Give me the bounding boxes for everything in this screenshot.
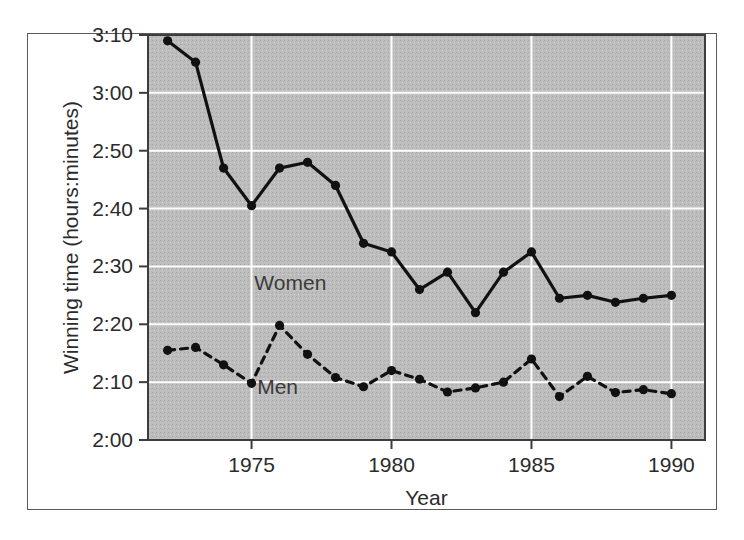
series-annotation-women: Women bbox=[254, 271, 326, 294]
data-point-men bbox=[639, 385, 648, 394]
data-point-men bbox=[219, 360, 228, 369]
data-point-women bbox=[471, 308, 480, 317]
y-axis-tick-label: 2:00 bbox=[92, 428, 133, 451]
data-point-women bbox=[639, 294, 648, 303]
data-point-men bbox=[331, 373, 340, 382]
data-point-men bbox=[499, 378, 508, 387]
x-axis-title: Year bbox=[405, 486, 447, 509]
data-point-men bbox=[555, 392, 564, 401]
y-axis-tick-label: 2:10 bbox=[92, 370, 133, 393]
data-point-men bbox=[247, 379, 256, 388]
plot-background bbox=[148, 35, 705, 440]
data-point-men bbox=[191, 343, 200, 352]
data-point-women bbox=[583, 291, 592, 300]
series-annotation-men: Men bbox=[257, 375, 298, 398]
data-point-men bbox=[583, 372, 592, 381]
data-point-women bbox=[303, 158, 312, 167]
data-point-women bbox=[527, 247, 536, 256]
data-point-women bbox=[219, 163, 228, 172]
marathon-winning-times-figure: 2:002:102:202:302:402:503:003:1019751980… bbox=[0, 0, 744, 540]
data-point-men bbox=[359, 382, 368, 391]
data-point-men bbox=[527, 354, 536, 363]
data-point-women bbox=[359, 239, 368, 248]
data-point-men bbox=[667, 389, 676, 398]
data-point-women bbox=[247, 201, 256, 210]
line-chart: 2:002:102:202:302:402:503:003:1019751980… bbox=[0, 0, 744, 540]
data-point-men bbox=[387, 366, 396, 375]
data-point-men bbox=[303, 350, 312, 359]
y-axis-tick-label: 2:40 bbox=[92, 197, 133, 220]
y-axis-tick-label: 2:50 bbox=[92, 139, 133, 162]
y-axis-tick-label: 2:20 bbox=[92, 312, 133, 335]
data-point-women bbox=[499, 268, 508, 277]
data-point-men bbox=[275, 321, 284, 330]
y-axis-title: Winning time (hours:minutes) bbox=[59, 101, 82, 374]
data-point-women bbox=[555, 294, 564, 303]
data-point-men bbox=[611, 388, 620, 397]
data-point-women bbox=[611, 298, 620, 307]
x-axis-tick-label: 1985 bbox=[508, 453, 555, 476]
data-point-women bbox=[415, 285, 424, 294]
data-point-women bbox=[191, 58, 200, 67]
data-point-women bbox=[163, 36, 172, 45]
data-point-women bbox=[667, 291, 676, 300]
x-axis-tick-label: 1990 bbox=[648, 453, 695, 476]
data-point-men bbox=[471, 383, 480, 392]
data-point-women bbox=[275, 163, 284, 172]
data-point-men bbox=[163, 346, 172, 355]
data-point-men bbox=[415, 375, 424, 384]
data-point-men bbox=[443, 387, 452, 396]
y-axis-tick-label: 3:10 bbox=[92, 23, 133, 46]
x-axis-tick-label: 1980 bbox=[368, 453, 415, 476]
x-axis-tick-label: 1975 bbox=[228, 453, 275, 476]
data-point-women bbox=[387, 247, 396, 256]
data-point-women bbox=[443, 268, 452, 277]
y-axis-tick-label: 3:00 bbox=[92, 81, 133, 104]
data-point-women bbox=[331, 181, 340, 190]
y-axis-tick-label: 2:30 bbox=[92, 254, 133, 277]
